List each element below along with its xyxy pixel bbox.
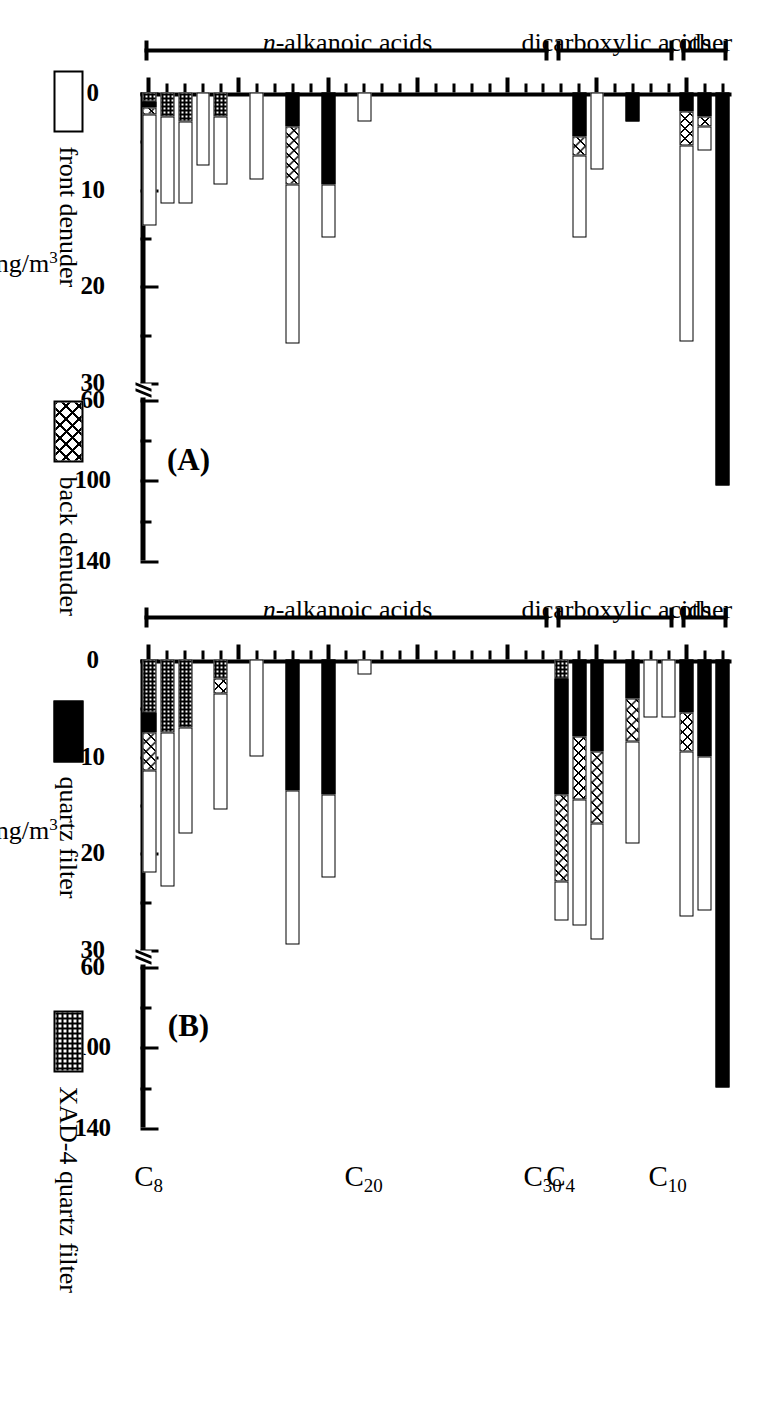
- category-tick: [344, 650, 347, 659]
- category-tick: [236, 77, 240, 92]
- category-tick: [146, 77, 150, 92]
- bar-segment: [285, 92, 299, 126]
- bar-segment: [590, 751, 604, 824]
- axis-break-marker: [135, 383, 151, 397]
- bar-segment: [643, 659, 657, 717]
- legend-label: quartz filter: [52, 776, 82, 898]
- bar-segment: [196, 92, 210, 165]
- group-label: other: [605, 594, 757, 624]
- category-tick: [721, 83, 724, 92]
- category-tick: [452, 83, 455, 92]
- bar-segment: [572, 155, 586, 237]
- bar-segment: [625, 698, 639, 742]
- category-axis-line: [140, 92, 731, 96]
- bar-segment: [715, 659, 729, 1087]
- bar-segment: [285, 790, 299, 945]
- bar-segment: [715, 92, 729, 485]
- bar-segment: [213, 116, 227, 184]
- category-tick: [577, 650, 580, 659]
- carbon-number-label: C20: [328, 1159, 398, 1197]
- category-tick: [488, 650, 491, 659]
- category-tick: [649, 83, 652, 92]
- value-tick: [140, 1127, 158, 1130]
- category-tick: [488, 83, 491, 92]
- bar-segment: [142, 107, 156, 115]
- bar-segment: [249, 659, 263, 756]
- category-tick: [362, 650, 365, 659]
- panel-tag: (B): [167, 1008, 208, 1044]
- value-tick: [140, 1087, 151, 1090]
- bar-segment: [160, 659, 174, 732]
- category-tick: [613, 83, 616, 92]
- value-tick: [140, 399, 158, 402]
- category-tick: [470, 650, 473, 659]
- category-tick: [273, 83, 276, 92]
- category-tick: [559, 650, 562, 659]
- category-tick: [255, 83, 258, 92]
- group-label: n-alkanoic acids: [247, 27, 447, 57]
- category-tick: [594, 77, 598, 92]
- category-tick: [684, 644, 688, 659]
- category-tick: [326, 77, 330, 92]
- value-tick: [140, 901, 151, 904]
- category-tick: [362, 83, 365, 92]
- bar-segment: [321, 794, 335, 876]
- value-tick: [140, 334, 151, 337]
- category-tick: [380, 83, 383, 92]
- category-tick: [415, 644, 419, 659]
- value-tick: [140, 439, 151, 442]
- category-tick: [326, 644, 330, 659]
- category-tick: [236, 644, 240, 659]
- bar-segment: [554, 881, 568, 920]
- category-tick: [165, 650, 168, 659]
- category-tick: [398, 650, 401, 659]
- category-tick: [631, 83, 634, 92]
- value-tick: [140, 285, 158, 288]
- bar-segment: [142, 114, 156, 225]
- bar-segment: [554, 678, 568, 794]
- panel-a-plot: [140, 92, 731, 560]
- bar-segment: [697, 659, 711, 756]
- bar-segment: [590, 823, 604, 939]
- bar-segment: [321, 92, 335, 184]
- legend-swatch: [53, 70, 83, 132]
- bar-segment: [679, 712, 693, 751]
- category-tick: [524, 83, 527, 92]
- category-tick: [398, 83, 401, 92]
- category-tick: [721, 650, 724, 659]
- category-tick: [703, 83, 706, 92]
- bar-segment: [679, 659, 693, 712]
- category-tick: [201, 83, 204, 92]
- category-tick: [201, 650, 204, 659]
- bar-segment: [142, 659, 156, 712]
- bar-segment: [697, 756, 711, 911]
- value-tick: [140, 520, 151, 523]
- bar-segment: [213, 693, 227, 809]
- panel-b-plot: [140, 659, 731, 1127]
- category-tick: [684, 77, 688, 92]
- category-tick: [667, 650, 670, 659]
- bar-segment: [142, 92, 156, 101]
- axis-break-marker: [135, 950, 151, 964]
- value-tick: [140, 560, 158, 563]
- bar-segment: [697, 116, 711, 126]
- category-tick: [291, 83, 294, 92]
- legend: front denuderback denuderquartz filterXA…: [0, 0, 117, 1415]
- category-tick: [146, 644, 150, 659]
- bar-segment: [213, 659, 227, 678]
- bar-segment: [590, 92, 604, 169]
- figure-root: 010203060100140ng/m3(A)n-alkanoic acidsd…: [0, 0, 757, 1415]
- bar-segment: [285, 126, 299, 184]
- category-tick: [165, 83, 168, 92]
- group-label: other: [605, 27, 757, 57]
- category-axis-line: [140, 659, 731, 663]
- legend-label: XAD-4 quartz filter: [52, 1086, 82, 1292]
- bar-segment: [572, 136, 586, 155]
- bar-segment: [357, 659, 371, 674]
- bar-segment: [697, 92, 711, 116]
- value-tick: [140, 237, 151, 240]
- bar-segment: [321, 184, 335, 237]
- category-tick: [309, 650, 312, 659]
- bar-segment: [625, 92, 639, 121]
- category-tick: [344, 83, 347, 92]
